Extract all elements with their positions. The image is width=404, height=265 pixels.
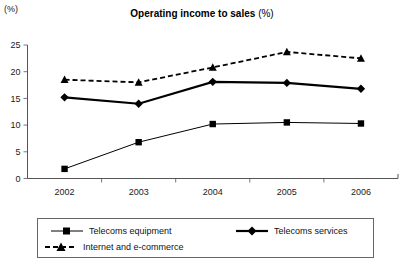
y-tick-label: 25 — [10, 40, 20, 50]
y-tick-label: 10 — [10, 120, 20, 130]
chart-legend: Telecoms equipment Telecoms services Int… — [37, 218, 374, 258]
y-axis-ticks: 0510152025 — [10, 40, 27, 184]
series-1 — [61, 119, 364, 172]
data-point-marker — [61, 166, 67, 172]
data-point-marker — [357, 85, 365, 93]
data-point-marker — [135, 139, 141, 145]
y-tick-label: 15 — [10, 94, 20, 104]
legend-label-telecoms-equipment: Telecoms equipment — [89, 226, 172, 236]
legend-item-telecoms-services: Telecoms services — [235, 224, 348, 238]
chart-container: (%) Operating income to sales (%) 051015… — [0, 0, 404, 265]
legend-key-triangle-icon — [44, 241, 78, 253]
series-2 — [60, 78, 365, 108]
data-point-marker — [283, 79, 291, 87]
x-tick-label: 2004 — [203, 187, 223, 197]
x-tick-label: 2005 — [277, 187, 297, 197]
x-tick-label: 2006 — [351, 187, 371, 197]
data-point-marker — [60, 93, 68, 101]
x-axis-ticks — [102, 179, 324, 183]
series-layer — [60, 48, 365, 172]
legend-key-square-icon — [50, 225, 84, 237]
x-axis-labels: 20022003200420052006 — [55, 187, 371, 197]
legend-key-diamond-icon — [235, 225, 269, 237]
x-tick-label: 2003 — [129, 187, 149, 197]
y-tick-label: 5 — [15, 147, 20, 157]
x-tick-label: 2002 — [55, 187, 75, 197]
data-point-marker — [358, 120, 364, 126]
y-tick-label: 20 — [10, 67, 20, 77]
plot-area: 0510152025 20022003200420052006 — [0, 0, 404, 215]
y-tick-label: 0 — [15, 174, 20, 184]
legend-item-internet-ecommerce: Internet and e-commerce — [44, 240, 184, 254]
data-point-marker — [210, 121, 216, 127]
data-point-marker — [134, 100, 142, 108]
data-point-marker — [209, 78, 217, 86]
data-point-marker — [284, 119, 290, 125]
legend-label-internet-ecommerce: Internet and e-commerce — [83, 242, 184, 252]
legend-item-telecoms-equipment: Telecoms equipment — [50, 224, 172, 238]
legend-label-telecoms-services: Telecoms services — [274, 226, 348, 236]
